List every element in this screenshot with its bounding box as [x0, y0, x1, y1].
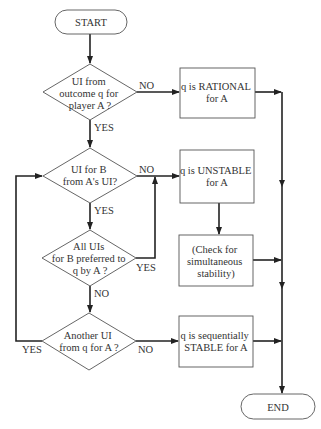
decision-all-uis-preferred: All UIs for B preferred to q by A ? [42, 230, 136, 286]
unstable-line-1: q is UNSTABLE [180, 165, 252, 176]
flowchart: START UI from outcome q for player A ? q… [0, 0, 321, 429]
d3-line-3: q by A ? [73, 265, 108, 276]
decision-ui-for-b: UI for B from A's UI? [43, 148, 137, 203]
d3-yes-label: YES [136, 262, 156, 273]
process-check-simultaneous: (Check for simultaneous stability) [179, 235, 253, 286]
d4-no-label: NO [138, 344, 154, 355]
unstable-line-2: for A [206, 177, 228, 188]
svg-text:q is sequentially STABLE: q is sequentially STABLE for A [181, 330, 252, 353]
d2-line-1: UI for B [71, 164, 107, 175]
d2-line-2: from A's UI? [63, 176, 118, 187]
check-line-3: stability) [197, 268, 235, 280]
d3-line-2: for B preferred to [52, 253, 126, 264]
d4-line-2: from q for A ? [59, 342, 119, 353]
check-line-2: simultaneous [187, 256, 242, 267]
process-sequentially-stable: q is sequentially STABLE for A [179, 316, 253, 367]
svg-text:Another UI from q for A: Another UI from q for A ? [59, 330, 119, 353]
d1-line-3: player A ? [69, 100, 112, 111]
d2-yes-label: YES [94, 205, 114, 216]
d4-yes-label: YES [22, 344, 42, 355]
seq-line-1: q is sequentially [181, 330, 250, 341]
start-label: START [75, 17, 107, 28]
decision-ui-from-outcome: UI from outcome q for player A ? [43, 64, 137, 120]
decision-another-ui: Another UI from q for A ? [42, 313, 136, 370]
process-rational: q is RATIONAL for A [180, 68, 255, 118]
d1-line-1: UI from [72, 76, 106, 87]
d4-line-1: Another UI [64, 330, 113, 341]
check-line-1: (Check for [192, 244, 238, 256]
end-label: END [267, 402, 289, 413]
start-terminal: START [55, 10, 127, 34]
d1-no-label: NO [139, 80, 155, 91]
d1-yes-label: YES [94, 122, 114, 133]
d3-no-label: NO [94, 288, 110, 299]
rational-line-1: q is RATIONAL [181, 81, 251, 92]
d2-no-label: NO [139, 164, 155, 175]
d3-line-1: All UIs [73, 241, 104, 252]
d1-line-2: outcome q for [59, 88, 118, 99]
process-unstable: q is UNSTABLE for A [180, 150, 254, 203]
end-terminal: END [241, 394, 315, 419]
seq-line-2: STABLE for A [184, 342, 248, 353]
rational-line-2: for A [206, 93, 228, 104]
